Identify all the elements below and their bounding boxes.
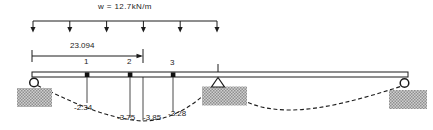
dimension-label: 23.094 xyxy=(70,41,94,50)
moment-curve-right-span xyxy=(221,84,401,110)
load-arrow-down-icon xyxy=(67,21,72,33)
dimension-arrow-icon xyxy=(137,54,144,58)
foundation-block-middle xyxy=(202,87,247,106)
node-label-3: 3 xyxy=(170,58,174,67)
node-marker-3 xyxy=(171,72,176,77)
foundation-block-left xyxy=(17,88,52,107)
beam-analysis-diagram: w = 12.7kN/m 23.094 1 2 3 -2.34 -3.75 -3… xyxy=(0,0,433,130)
load-label: w = 12.7kN/m xyxy=(98,2,152,11)
foundation-block-right xyxy=(389,90,427,109)
load-arrow-down-icon xyxy=(215,21,220,33)
moment-value-node3: -3.28 xyxy=(168,109,186,118)
node-marker-1 xyxy=(85,72,90,77)
roller-support-right-icon xyxy=(400,79,409,88)
moment-value-node2: -3.75 xyxy=(117,113,135,122)
moment-value-max: -3.85 xyxy=(143,113,161,122)
node-marker-2 xyxy=(128,72,133,77)
load-arrow-down-icon xyxy=(31,21,36,33)
moment-value-node1: -2.34 xyxy=(74,103,92,112)
load-arrow-down-icon xyxy=(141,21,146,33)
pin-support-middle-icon xyxy=(212,78,225,88)
distributed-load xyxy=(31,21,220,33)
load-arrow-down-icon xyxy=(104,21,109,33)
node-label-2: 2 xyxy=(127,57,131,66)
roller-support-left-icon xyxy=(30,78,39,87)
diagram-canvas xyxy=(0,0,433,130)
load-arrow-down-icon xyxy=(178,21,183,33)
node-label-1: 1 xyxy=(84,57,88,66)
